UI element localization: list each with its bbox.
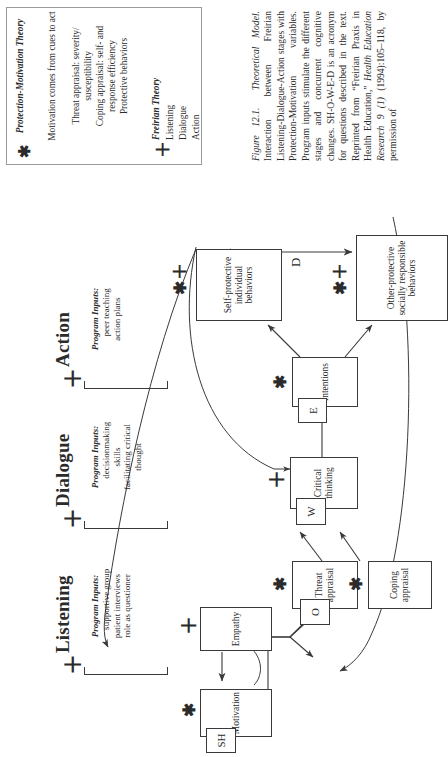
mark-intentions: ✱ [272,375,289,389]
legend-item-pmt-3: Protective behaviors [119,10,131,142]
node-coping-appraisal[interactable]: Coping appraisal [368,561,432,609]
legend-item-pmt-2: Coping appraisal: self- and response eff… [95,10,119,142]
tag-w: W [296,498,326,525]
program-inputs-action: Program Inputs: peer teaching action pla… [90,265,122,373]
legend-item-freirian-1: Dialogue [178,106,190,140]
node-label-empathy: Empathy [231,612,242,646]
stage-symbol-dialogue: ＋ [56,508,86,529]
mark-self-protective: ✱＋ [172,262,189,295]
node-other-protective[interactable]: Other-protective socially responsible be… [356,235,448,321]
program-inputs-body-listening: supportive group patient interviews role… [101,569,133,639]
node-label-intentions: Intentions [320,363,331,401]
mark-other-protective: ✱＋ [332,262,349,295]
mark-threat-appraisal: ✱ [272,577,289,591]
stage-symbol-action: ＋ [56,368,86,389]
tag-label-w: W [305,506,317,516]
program-inputs-dialogue: Program Inputs: decisionmaking skills fa… [90,401,144,513]
node-self-protective[interactable]: Self-protective individual behaviors [196,249,282,321]
program-inputs-listening: Program Inputs: supportive group patient… [90,551,133,661]
legend-title-freirian: Freirian Theory [151,78,163,140]
figure-short-title: Theoretical Model. [250,11,261,90]
legend-item-pmt-1: Threat appraisal: severity/ susceptibili… [71,10,95,142]
bracket-listening [84,667,168,675]
legend-box: ✱ Protection-Motivation Theory Motivatio… [6,7,202,165]
node-label-critical-thinking: Critical thinking [313,467,335,499]
tag-sh: SH [206,728,236,753]
bracket-dialogue [84,521,168,529]
program-inputs-body-action: peer teaching action plans [101,288,122,340]
legend-item-pmt-0: Motivation comes from cues to act [47,10,59,142]
program-inputs-title-dialogue: Program Inputs: [90,426,100,488]
legend-title-pmt: Protection-Motivation Theory [15,10,27,142]
figure-caption: Figure 12.1. Theoretical Model. Interact… [250,11,400,161]
legend-plus-icon: ＋ [149,141,174,158]
tag-label-sh: SH [215,733,227,747]
mark-critical-thinking: ＋ [268,470,287,489]
node-label-other-protective: Other-protective socially responsible be… [386,240,419,315]
legend-asterisk-icon: ✱ [15,145,34,158]
program-inputs-title-listening: Program Inputs: [90,575,100,637]
legend-item-freirian-0: Listening [165,105,177,140]
tag-e: E [298,398,327,423]
mark-motivation: ✱ [181,703,198,717]
figure-number: Figure 12.1. [250,107,261,161]
stage-symbol-listening: ＋ [56,654,86,675]
legend-item-freirian-2: Action [191,115,203,140]
tag-label-e: E [307,407,319,414]
node-label-self-protective: Self-protective individual behaviors [223,257,256,313]
mark-empathy: ＋ [180,616,199,635]
mark-coping-appraisal: ✱ [348,577,365,591]
tag-o: O [300,599,330,625]
node-label-threat-appraisal: Threat appraisal [314,568,336,602]
program-inputs-title-action: Program Inputs: [90,288,100,350]
node-empathy[interactable]: Empathy [200,607,272,651]
stage-label-dialogue: Dialogue [52,434,74,507]
figure-caption-body: Interaction between Freirian Listening-D… [262,11,398,161]
node-label-coping-appraisal: Coping appraisal [389,568,411,602]
edge-label-d: D [288,258,304,267]
caption-journal-title: Health Education Research 9 (1) [362,11,385,161]
stage-label-listening: Listening [52,575,74,653]
bracket-action [84,381,168,389]
tag-label-o: O [309,608,321,616]
stage-label-action: Action [52,312,74,367]
program-inputs-body-dialogue: decisionmaking skills facilitating criti… [101,422,143,490]
